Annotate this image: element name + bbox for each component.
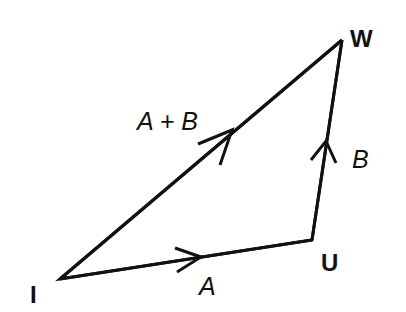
edge-label-a-plus-b: A + B — [135, 107, 198, 135]
vertex-label-u: U — [321, 249, 338, 276]
edge-label-a: A — [197, 272, 216, 300]
triangle-outline — [60, 40, 342, 279]
vertex-label-i: I — [30, 281, 37, 308]
edge-label-b: B — [352, 145, 369, 173]
vertex-label-w: W — [350, 25, 373, 52]
vector-triangle-diagram: I U W A B A + B — [0, 0, 406, 312]
